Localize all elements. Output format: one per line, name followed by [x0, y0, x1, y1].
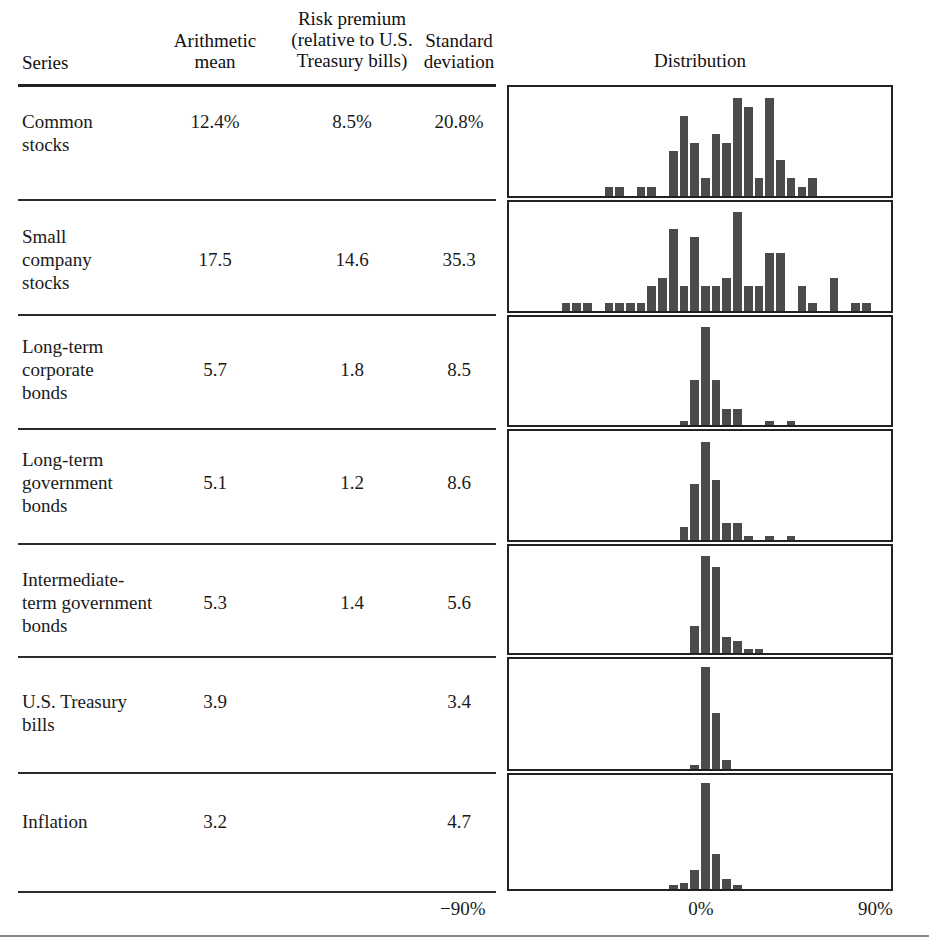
histogram-bar	[647, 286, 656, 311]
rates-of-return-table: Series Arithmetic mean Risk premium (rel…	[0, 0, 929, 949]
table-rule	[18, 891, 496, 893]
row-label: Smallcompanystocks	[22, 225, 172, 294]
panel-top-line	[507, 773, 893, 775]
histogram-bar	[776, 160, 785, 196]
row-label-line2: stocks	[22, 133, 172, 156]
histogram-bar	[798, 286, 807, 311]
histogram-bar	[733, 212, 742, 311]
distribution-panel	[507, 773, 893, 891]
histogram-bar	[701, 442, 710, 540]
histogram-bar	[701, 783, 710, 889]
panel-baseline	[507, 425, 893, 427]
cell-standard-deviation: 20.8%	[404, 110, 514, 133]
panel-baseline	[507, 653, 893, 655]
histogram-bar	[765, 536, 774, 540]
panel-top-line	[507, 85, 893, 87]
histogram-bar	[733, 523, 742, 540]
cell-risk-premium: 1.8	[282, 358, 422, 381]
column-header-standard-deviation-line2: deviation	[404, 51, 514, 72]
cell-risk-premium: 14.6	[282, 248, 422, 271]
histogram-bar	[722, 523, 731, 540]
panel-frame	[507, 429, 893, 542]
histogram-bar	[712, 286, 721, 311]
cell-risk-premium: 1.4	[282, 591, 422, 614]
row-label-line2: corporate	[22, 358, 172, 381]
row-label-line1: U.S. Treasury	[22, 690, 172, 713]
histogram-bar	[572, 303, 581, 311]
panel-frame	[507, 315, 893, 427]
histogram-bar	[722, 637, 731, 653]
histogram-bar	[562, 303, 571, 311]
histogram-bar	[701, 667, 710, 769]
histogram-bar	[690, 765, 699, 769]
row-label-line1: Intermediate-	[22, 568, 172, 591]
histogram-bar	[690, 870, 699, 889]
histogram-bar	[744, 536, 753, 540]
table-rule	[18, 543, 496, 545]
row-label-line3: bonds	[22, 614, 172, 637]
histogram-bar	[680, 116, 689, 196]
distribution-panel	[507, 429, 893, 542]
panel-top-line	[507, 429, 893, 431]
row-label-line2: bills	[22, 713, 172, 736]
column-header-distribution: Distribution	[507, 50, 893, 71]
histogram-bar	[690, 237, 699, 311]
panel-frame	[507, 657, 893, 771]
histogram-bar	[701, 178, 710, 196]
axis-label-zero: 0%	[666, 898, 736, 920]
row-label-line2: term government	[22, 591, 172, 614]
column-header-risk-premium-line1: Risk premium	[272, 8, 432, 29]
cell-arithmetic-mean: 3.2	[160, 810, 270, 833]
histogram-bar	[669, 229, 678, 311]
row-label-line2: company	[22, 248, 172, 271]
histogram-bar	[701, 286, 710, 311]
panel-top-line	[507, 315, 893, 317]
table-rule	[18, 772, 496, 774]
panel-frame	[507, 544, 893, 655]
column-header-series: Series	[22, 52, 68, 73]
panel-top-line	[507, 657, 893, 659]
histogram-bar	[787, 536, 796, 540]
panel-baseline	[507, 540, 893, 542]
histogram-bar	[701, 556, 710, 653]
histogram-bar	[712, 567, 721, 653]
histogram-bar	[680, 527, 689, 540]
histogram-bar	[722, 879, 731, 889]
cell-arithmetic-mean: 3.9	[160, 690, 270, 713]
panel-baseline	[507, 769, 893, 771]
row-label-line2: government	[22, 471, 172, 494]
cell-standard-deviation: 35.3	[404, 248, 514, 271]
histogram-bar	[808, 178, 817, 196]
panel-top-line	[507, 544, 893, 546]
histogram-bar	[851, 303, 860, 311]
histogram-bar	[712, 480, 721, 540]
row-label: Inflation	[22, 810, 172, 833]
histogram-bar	[669, 885, 678, 889]
row-label: Intermediate-term governmentbonds	[22, 568, 172, 637]
histogram-bar	[765, 421, 774, 425]
histogram-bar	[733, 641, 742, 653]
histogram-bar	[712, 380, 721, 425]
cell-arithmetic-mean: 12.4%	[160, 110, 270, 133]
cell-standard-deviation: 3.4	[404, 690, 514, 713]
histogram-bar	[690, 484, 699, 540]
histogram-bar	[637, 187, 646, 196]
row-label-line3: bonds	[22, 494, 172, 517]
axis-label-min: −90%	[440, 898, 510, 920]
histogram-bar	[615, 187, 624, 196]
histogram-bar	[722, 409, 731, 425]
histogram-bar	[744, 649, 753, 653]
histogram-bar	[755, 286, 764, 311]
row-label: Long-termcorporatebonds	[22, 335, 172, 404]
histogram-bar	[658, 278, 667, 311]
histogram-bar	[776, 253, 785, 311]
cell-arithmetic-mean: 5.3	[160, 591, 270, 614]
histogram-bar	[733, 409, 742, 425]
histogram-bar	[615, 303, 624, 311]
panel-baseline	[507, 311, 893, 313]
panel-baseline	[507, 889, 893, 891]
histogram-bar	[787, 178, 796, 196]
histogram-bar	[680, 286, 689, 311]
histogram-bar	[626, 303, 635, 311]
cell-arithmetic-mean: 17.5	[160, 248, 270, 271]
